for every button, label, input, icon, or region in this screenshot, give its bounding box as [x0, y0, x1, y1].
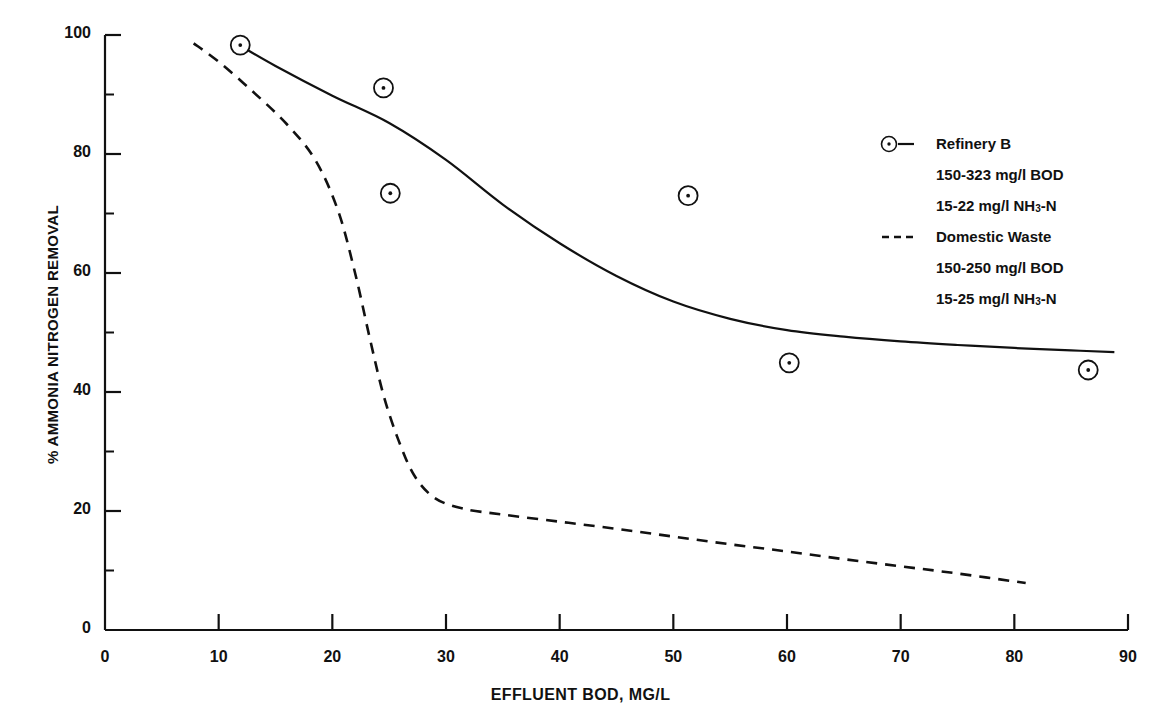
x-tick-label: 90 [1098, 648, 1158, 666]
x-tick-label: 50 [643, 648, 703, 666]
x-axis-title: EFFLUENT BOD, MG/L [0, 686, 1161, 704]
chart-figure: 020406080100 0102030405060708090 EFFLUEN… [0, 0, 1161, 726]
legend-detail-text-suffix: -N [1041, 283, 1057, 314]
data-point-center-dot [686, 194, 690, 198]
legend-detail-text-prefix: 15-25 mg/l NH [936, 283, 1035, 314]
data-point-center-dot [238, 43, 242, 47]
x-tick-label: 40 [530, 648, 590, 666]
axis-lines [105, 35, 1128, 630]
x-tick-label: 20 [302, 648, 362, 666]
legend-entry-refinery-b: Refinery B [880, 128, 1140, 159]
legend-detail-domestic-waste-bod: 150-250 mg/l BOD [880, 252, 1140, 283]
legend-detail-refinery-b-nh3n: 15-22 mg/l NH3-N [880, 190, 1140, 221]
legend-detail-text-suffix: -N [1041, 190, 1057, 221]
legend-marker-circle-dot-icon [880, 135, 936, 153]
legend-detail-subscript: 3 [1035, 193, 1041, 224]
legend-detail-refinery-b-bod: 150-323 mg/l BOD [880, 159, 1140, 190]
legend-detail-text: 150-250 mg/l BOD [936, 252, 1064, 283]
x-tick-label: 0 [75, 648, 135, 666]
x-tick-label: 10 [189, 648, 249, 666]
legend-detail-text: 150-323 mg/l BOD [936, 159, 1064, 190]
x-tick-label: 60 [757, 648, 817, 666]
chart-legend: Refinery B 150-323 mg/l BOD 15-22 mg/l N… [880, 128, 1140, 314]
legend-detail-text-prefix: 15-22 mg/l NH [936, 190, 1035, 221]
legend-marker-dashed-line-icon [880, 228, 936, 246]
data-point-center-dot [388, 191, 392, 195]
y-tick-label: 100 [29, 24, 91, 42]
legend-detail-domestic-waste-nh3n: 15-25 mg/l NH3-N [880, 283, 1140, 314]
data-point-center-dot [382, 86, 386, 90]
y-axis-title: % AMMONIA NITROGEN REMOVAL [44, 55, 61, 615]
y-tick-label: 0 [29, 619, 91, 637]
legend-entry-domestic-waste: Domestic Waste [880, 221, 1140, 252]
x-tick-label: 30 [416, 648, 476, 666]
data-point-center-dot [787, 361, 791, 365]
legend-detail-subscript: 3 [1035, 286, 1041, 317]
axis-ticks [105, 95, 1014, 631]
x-tick-label: 80 [984, 648, 1044, 666]
data-point-center-dot [1086, 368, 1090, 372]
legend-label-refinery-b: Refinery B [936, 128, 1140, 159]
plot-area [0, 0, 1161, 726]
legend-label-domestic-waste: Domestic Waste [936, 221, 1140, 252]
x-tick-label: 70 [871, 648, 931, 666]
